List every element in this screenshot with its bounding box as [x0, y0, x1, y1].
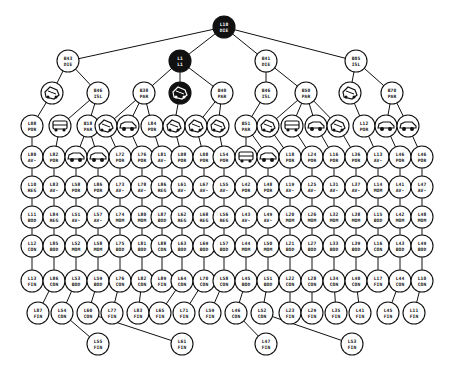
tree-node[interactable]: L37AV-: [345, 176, 367, 198]
tree-node[interactable]: L1L1: [169, 50, 191, 72]
tree-node[interactable]: L58POR: [65, 176, 87, 198]
tree-node[interactable]: L86CON: [43, 270, 65, 292]
tree-node[interactable]: L54CON: [51, 302, 73, 324]
tree-node[interactable]: L76CON: [109, 270, 131, 292]
tree-node[interactable]: B70PAR: [381, 82, 403, 104]
tree-node[interactable]: [339, 82, 361, 104]
tree-node[interactable]: L59BOD: [87, 270, 109, 292]
tree-node[interactable]: L20MOM: [279, 206, 301, 228]
tree-node[interactable]: B41DIE: [255, 50, 277, 72]
tree-node[interactable]: B38PAR: [133, 82, 155, 104]
tree-node[interactable]: L55FIN: [87, 333, 109, 355]
tree-node[interactable]: L10DIE: [213, 16, 235, 38]
tree-node[interactable]: L63BOD: [171, 235, 193, 257]
tree-node[interactable]: L58CON: [213, 270, 235, 292]
tree-node[interactable]: L54POR: [213, 146, 235, 168]
tree-node[interactable]: L46CON: [225, 302, 247, 324]
tree-node[interactable]: [397, 115, 419, 137]
tree-node[interactable]: L48MOM: [411, 206, 433, 228]
tree-node[interactable]: L73AV-: [109, 176, 131, 198]
tree-node[interactable]: L29FIN: [301, 302, 323, 324]
tree-node[interactable]: L47FIN: [255, 333, 277, 355]
tree-node[interactable]: L11FIN: [403, 302, 425, 324]
tree-node[interactable]: L44CON: [389, 270, 411, 292]
tree-node[interactable]: L75BOD: [109, 235, 131, 257]
tree-node[interactable]: L59FIN: [199, 302, 221, 324]
tree-node[interactable]: L08POR: [193, 146, 215, 168]
tree-node[interactable]: L84POR: [141, 115, 163, 137]
node-circle[interactable]: [281, 115, 303, 137]
tree-node[interactable]: L55AV-: [213, 176, 235, 198]
tree-node[interactable]: L12POR: [353, 115, 375, 137]
tree-node[interactable]: [87, 146, 109, 168]
tree-node[interactable]: L14MOM: [367, 176, 389, 198]
tree-node[interactable]: L43AV-: [235, 206, 257, 228]
tree-node[interactable]: L22CON: [279, 270, 301, 292]
tree-node[interactable]: L82CON: [131, 270, 153, 292]
tree-node[interactable]: [117, 115, 139, 137]
tree-node[interactable]: L40CON: [345, 270, 367, 292]
tree-node[interactable]: L24POR: [301, 146, 323, 168]
tree-node[interactable]: L80MOM: [131, 206, 153, 228]
node-circle[interactable]: [235, 146, 257, 168]
tree-node[interactable]: L27BOD: [301, 235, 323, 257]
tree-node[interactable]: L87FIN: [27, 302, 49, 324]
tree-node[interactable]: L23FIN: [279, 302, 301, 324]
tree-node[interactable]: L33BOD: [323, 235, 345, 257]
tree-node[interactable]: [327, 115, 349, 137]
tree-node[interactable]: L46POR: [411, 146, 433, 168]
tree-node[interactable]: L61AV-: [171, 176, 193, 198]
tree-node[interactable]: B46ISL: [87, 82, 109, 104]
tree-node[interactable]: L42POR: [235, 176, 257, 198]
tree-node[interactable]: L10CON: [411, 270, 433, 292]
tree-node[interactable]: L19AV-: [279, 176, 301, 198]
tree-node[interactable]: L68REG: [193, 206, 215, 228]
tree-node[interactable]: L58MOM: [87, 235, 109, 257]
tree-node[interactable]: L61FIN: [171, 333, 193, 355]
tree-node[interactable]: [41, 82, 63, 104]
tree-node[interactable]: L41FIN: [349, 302, 371, 324]
tree-node[interactable]: L57AV-: [87, 206, 109, 228]
tree-node[interactable]: L88CON: [151, 235, 173, 257]
tree-node[interactable]: L08POR: [21, 115, 43, 137]
tree-node[interactable]: L45FIN: [377, 302, 399, 324]
tree-node[interactable]: L16POR: [323, 146, 345, 168]
tree-node[interactable]: L12CON: [21, 235, 43, 257]
tree-node[interactable]: [375, 115, 397, 137]
tree-node[interactable]: L69BOD: [193, 235, 215, 257]
tree-node[interactable]: L89FIN: [151, 270, 173, 292]
tree-node[interactable]: L87BOD: [151, 206, 173, 228]
tree-node[interactable]: L21BOD: [279, 235, 301, 257]
tree-node[interactable]: L81BOD: [131, 235, 153, 257]
tree-node[interactable]: L17FIN: [367, 270, 389, 292]
tree-node[interactable]: B05ISL: [345, 50, 367, 72]
tree-node[interactable]: [95, 115, 117, 137]
tree-node[interactable]: L39BOD: [345, 235, 367, 257]
tree-node[interactable]: L60CON: [77, 302, 99, 324]
tree-node[interactable]: [49, 115, 71, 137]
node-circle[interactable]: [49, 115, 71, 137]
tree-node[interactable]: L13FIN: [21, 270, 43, 292]
tree-node[interactable]: L16CON: [367, 235, 389, 257]
tree-node[interactable]: B51PAR: [235, 115, 257, 137]
tree-node[interactable]: L43BOD: [389, 235, 411, 257]
tree-node[interactable]: [257, 115, 279, 137]
tree-node[interactable]: L28CON: [301, 270, 323, 292]
tree-node[interactable]: L77FIN: [101, 302, 123, 324]
tree-node[interactable]: L42MOM: [389, 206, 411, 228]
tree-node[interactable]: L76POR: [131, 146, 153, 168]
tree-node[interactable]: L84REG: [43, 206, 65, 228]
tree-node[interactable]: L56REG: [213, 206, 235, 228]
tree-node[interactable]: [207, 115, 229, 137]
tree-node[interactable]: L70CON: [193, 270, 215, 292]
tree-node[interactable]: L50MOM: [257, 235, 279, 257]
tree-node[interactable]: [65, 146, 87, 168]
tree-node[interactable]: L46POR: [389, 146, 411, 168]
tree-node[interactable]: L11BOD: [21, 206, 43, 228]
tree-node[interactable]: L51BOD: [257, 270, 279, 292]
tree-node[interactable]: [235, 146, 257, 168]
tree-node[interactable]: L18POR: [279, 146, 301, 168]
tree-node[interactable]: L10REG: [21, 176, 43, 198]
tree-node[interactable]: L44MOM: [235, 235, 257, 257]
tree-node[interactable]: [305, 115, 327, 137]
